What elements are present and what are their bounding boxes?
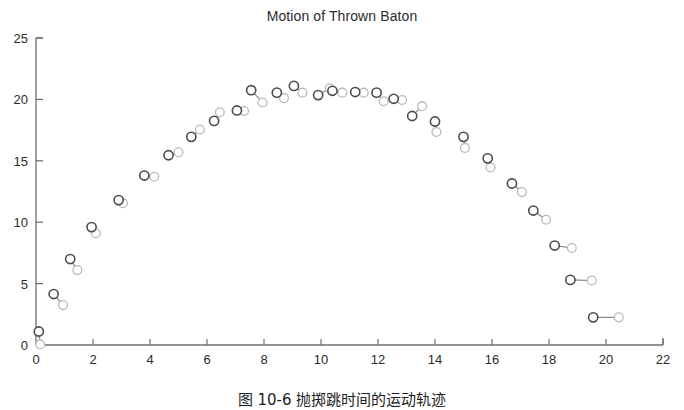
baton-marker <box>459 132 469 152</box>
baton-marker <box>507 179 526 197</box>
x-axis-tick-label: 16 <box>485 352 499 367</box>
x-axis-tick-label: 6 <box>203 352 210 367</box>
baton-marker <box>566 275 596 285</box>
x-axis-tick-label: 20 <box>599 352 613 367</box>
x-axis-tick-label: 8 <box>260 352 267 367</box>
baton-marker <box>589 313 624 322</box>
x-axis-tick-label: 10 <box>314 352 328 367</box>
baton-end-dark <box>87 223 96 232</box>
baton-end-light <box>518 188 527 197</box>
baton-end-light <box>542 215 551 224</box>
baton-marker <box>187 125 205 141</box>
baton-end-dark <box>483 154 492 163</box>
baton-marker <box>210 108 225 126</box>
baton-end-dark <box>372 88 381 97</box>
baton-end-dark <box>459 132 468 141</box>
baton-end-dark <box>164 151 173 160</box>
x-axis-tick-label: 0 <box>32 352 39 367</box>
baton-marker <box>272 88 288 103</box>
baton-end-light <box>59 301 68 310</box>
baton-end-light <box>398 96 407 105</box>
baton-end-light <box>379 97 388 106</box>
baton-end-dark <box>550 241 559 250</box>
baton-marker <box>87 223 100 238</box>
baton-marker <box>351 87 369 97</box>
baton-end-light <box>432 128 441 137</box>
baton-end-light <box>195 125 204 134</box>
baton-end-dark <box>507 179 516 188</box>
axes-group <box>36 38 663 345</box>
x-axis-tick-label: 14 <box>428 352 442 367</box>
baton-marker <box>389 94 407 104</box>
baton-marker <box>49 289 67 309</box>
baton-end-dark <box>408 111 417 120</box>
baton-end-light <box>36 340 45 349</box>
baton-marker <box>66 254 82 274</box>
baton-marker <box>408 102 427 121</box>
figure-caption: 图 10-6 抛掷跳时间的运动轨迹 <box>0 388 684 409</box>
baton-end-light <box>587 276 596 285</box>
y-axis-tick-label: 0 <box>21 338 28 353</box>
baton-end-dark <box>389 94 398 103</box>
baton-end-dark <box>49 289 58 298</box>
baton-marker <box>529 206 551 224</box>
baton-end-light <box>150 172 159 181</box>
baton-end-light <box>174 148 183 157</box>
tick-marks-group <box>36 38 663 345</box>
x-axis-tick-label: 4 <box>146 352 153 367</box>
baton-end-dark <box>232 106 241 115</box>
baton-end-dark <box>351 87 360 96</box>
baton-end-dark <box>114 195 123 204</box>
baton-end-dark <box>289 81 298 90</box>
baton-end-dark <box>430 117 439 126</box>
x-axis-tick-label: 18 <box>542 352 556 367</box>
baton-marker <box>372 88 388 106</box>
baton-end-light <box>338 88 347 97</box>
baton-end-dark <box>529 206 538 215</box>
baton-end-dark <box>34 327 43 336</box>
x-axis-tick-label: 2 <box>89 352 96 367</box>
baton-end-light <box>614 313 623 322</box>
baton-end-dark <box>566 275 575 284</box>
baton-marker <box>550 241 576 252</box>
baton-end-light <box>73 266 82 275</box>
y-axis-tick-label: 25 <box>14 31 28 46</box>
baton-marker <box>289 81 307 97</box>
baton-end-light <box>298 88 307 97</box>
baton-end-dark <box>272 88 281 97</box>
y-axis-tick-label: 20 <box>14 92 28 107</box>
baton-end-light <box>215 108 224 117</box>
baton-end-light <box>258 98 267 107</box>
baton-end-dark <box>589 313 598 322</box>
baton-marker <box>114 195 127 207</box>
baton-end-dark <box>66 254 75 263</box>
baton-end-light <box>567 244 576 253</box>
baton-end-dark <box>187 132 196 141</box>
baton-markers-group <box>34 81 623 348</box>
baton-marker <box>232 106 248 116</box>
baton-marker <box>164 148 183 160</box>
baton-end-dark <box>140 171 149 180</box>
baton-end-light <box>418 102 427 111</box>
y-axis-tick-label: 15 <box>14 154 28 169</box>
baton-end-dark <box>314 91 323 100</box>
baton-marker <box>140 171 159 181</box>
baton-marker <box>430 117 440 136</box>
baton-end-dark <box>210 116 219 125</box>
baton-marker <box>328 86 347 97</box>
baton-marker <box>483 154 495 172</box>
x-axis-tick-label: 22 <box>656 352 670 367</box>
baton-marker <box>247 86 267 107</box>
baton-end-dark <box>247 86 256 95</box>
plot-area: 02468101214161820220510152025 <box>0 0 684 410</box>
x-axis-tick-label: 12 <box>371 352 385 367</box>
baton-end-dark <box>328 86 337 95</box>
chart-figure: Motion of Thrown Baton 02468101214161820… <box>0 0 684 410</box>
baton-end-light <box>359 88 368 97</box>
y-axis-tick-label: 5 <box>21 277 28 292</box>
y-axis-tick-label: 10 <box>14 215 28 230</box>
baton-end-light <box>486 163 495 172</box>
baton-end-light <box>461 144 470 153</box>
tick-labels-group: 02468101214161820220510152025 <box>14 31 671 367</box>
